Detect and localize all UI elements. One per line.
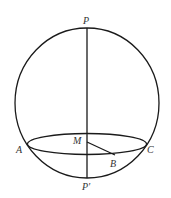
label-P-prime: P′ [81,181,91,192]
label-A: A [15,144,23,155]
radius-MB [87,142,115,155]
label-C: C [147,144,154,155]
label-M: M [72,135,82,146]
label-P: P [82,15,89,26]
sphere-diagram: P P′ M A B C [0,0,171,198]
label-B: B [110,158,116,169]
